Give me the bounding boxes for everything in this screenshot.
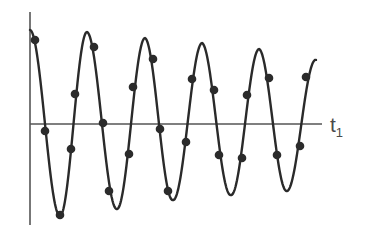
sample-point <box>265 74 274 83</box>
sample-point <box>302 73 311 82</box>
oscillation-curve <box>30 30 316 216</box>
sample-point <box>105 187 114 196</box>
sample-point <box>238 154 247 163</box>
sample-point <box>129 83 138 92</box>
sample-point <box>149 55 158 64</box>
sample-point <box>243 91 252 100</box>
damped-oscillation-chart: t1 <box>0 0 365 234</box>
sample-point <box>182 138 191 147</box>
sample-point <box>41 127 50 136</box>
sample-point <box>273 151 282 160</box>
sample-point <box>90 43 99 52</box>
sample-point <box>296 142 305 151</box>
x-axis-label-subscript: 1 <box>336 125 343 140</box>
sample-point <box>71 90 80 99</box>
sample-point <box>215 151 224 160</box>
sample-point <box>188 75 197 84</box>
sample-point <box>56 211 65 220</box>
sample-point <box>125 150 134 159</box>
sample-point <box>67 145 76 154</box>
sample-point <box>31 36 40 45</box>
sample-point <box>210 86 219 95</box>
sample-point <box>99 119 108 128</box>
sample-point <box>164 187 173 196</box>
x-axis-label: t1 <box>330 113 343 140</box>
sample-point <box>156 125 165 134</box>
